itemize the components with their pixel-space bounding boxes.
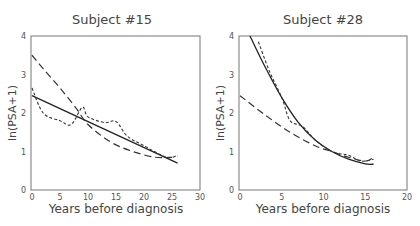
plot-frame: [239, 36, 407, 190]
y-ticks: 01234: [229, 32, 234, 195]
x-tick-label: 10: [318, 193, 328, 202]
figure: Subject #15 051015202530 01234 Years bef…: [0, 0, 420, 226]
series-short-dash-line: [32, 88, 178, 158]
panel-subject-15: Subject #15 051015202530 01234 Years bef…: [6, 12, 205, 216]
y-tick-label: 3: [229, 71, 234, 80]
y-tick-label: 1: [229, 148, 234, 157]
y-tick-label: 2: [21, 109, 26, 118]
x-tick-label: 20: [139, 193, 149, 202]
x-ticks: 05101520: [237, 193, 412, 202]
panel-subject-28: Subject #28 05101520 01234 Years before …: [214, 12, 412, 216]
y-tick-label: 4: [229, 32, 234, 41]
plot-frame: [31, 36, 200, 190]
x-ticks: 051015202530: [29, 193, 205, 202]
y-ticks: 01234: [21, 32, 26, 195]
series-group: [32, 55, 178, 163]
x-tick-label: 15: [111, 193, 121, 202]
x-tick-label: 30: [195, 193, 205, 202]
x-tick-label: 15: [360, 193, 370, 202]
x-tick-label: 0: [29, 193, 34, 202]
panel-title: Subject #15: [72, 12, 152, 27]
x-tick-label: 5: [57, 193, 62, 202]
x-tick-label: 0: [237, 193, 242, 202]
y-axis-label: ln(PSA+1): [214, 85, 227, 141]
series-group: [240, 36, 374, 164]
x-axis-label: Years before diagnosis: [48, 202, 184, 216]
series-short-dash-line: [258, 42, 373, 161]
panel-title: Subject #28: [283, 12, 363, 27]
y-tick-label: 0: [21, 186, 26, 195]
x-axis-label: Years before diagnosis: [255, 202, 391, 216]
x-tick-label: 10: [83, 193, 93, 202]
series-solid-line: [250, 36, 374, 164]
x-tick-label: 5: [279, 193, 284, 202]
y-tick-label: 4: [21, 32, 26, 41]
x-tick-label: 25: [167, 193, 177, 202]
y-tick-label: 1: [21, 148, 26, 157]
series-long-dash-line: [240, 96, 374, 161]
y-tick-label: 2: [229, 109, 234, 118]
y-tick-label: 3: [21, 71, 26, 80]
y-tick-label: 0: [229, 186, 234, 195]
y-axis-label: ln(PSA+1): [6, 85, 19, 141]
series-long-dash-line: [32, 55, 172, 157]
x-tick-label: 20: [402, 193, 412, 202]
